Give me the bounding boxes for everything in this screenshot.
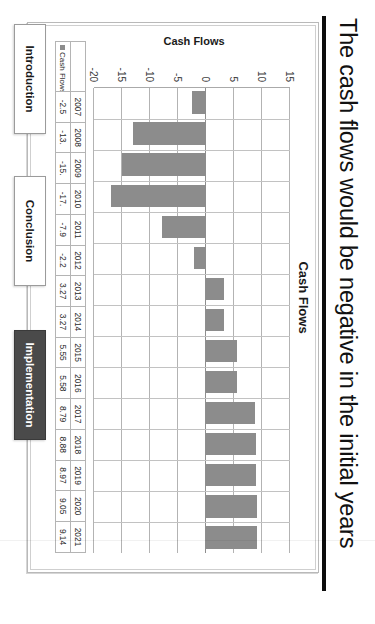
y-axis-tick-label: -10 [144, 48, 155, 82]
bar-2011[interactable] [162, 216, 206, 238]
nav-button-conclusion[interactable]: Conclusion [14, 176, 46, 286]
table-row: Cash Flows -2.5-13.-15.-17.-7.9-2.23.273… [56, 42, 71, 553]
table-value-2012: -2.2 [56, 245, 71, 276]
bar-2012[interactable] [194, 247, 206, 269]
table-value-2007: -2.5 [56, 92, 71, 123]
bar-slot [94, 304, 290, 335]
bar-2013[interactable] [206, 278, 224, 300]
table-value-2015: 5.55 [56, 337, 71, 368]
table-value-2013: 3.27 [56, 276, 71, 307]
table-header-2020: 2020 [71, 491, 86, 522]
plot-area: 151050-5-10-15-20 [94, 87, 290, 553]
bar-slot [94, 180, 290, 211]
bar-slot [94, 336, 290, 367]
presentation-slide: The cash flows would be negative in the … [0, 0, 375, 624]
scan-artifact [0, 540, 375, 541]
table-value-2010: -17. [56, 184, 71, 215]
y-axis-tick-label: -15 [116, 48, 127, 82]
table-value-2008: -13. [56, 122, 71, 153]
table-corner-cell [71, 42, 86, 92]
table-header-2011: 2011 [71, 214, 86, 245]
table-value-2019: 8.97 [56, 460, 71, 491]
bar-slot [94, 491, 290, 522]
bar-2008[interactable] [133, 122, 206, 144]
bar-2021[interactable] [206, 526, 257, 548]
table-header-2018: 2018 [71, 429, 86, 460]
y-axis-tick-label: 15 [284, 48, 295, 82]
table-value-2018: 8.88 [56, 429, 71, 460]
bar-2019[interactable] [206, 464, 256, 486]
table-header-2021: 2021 [71, 522, 86, 553]
bar-2017[interactable] [206, 402, 255, 424]
bar-slot [94, 118, 290, 149]
bar-slot [94, 273, 290, 304]
page-title: The cash flows would be negative in the … [334, 18, 361, 606]
bar-series [94, 87, 290, 553]
bar-2010[interactable] [111, 185, 206, 207]
bar-2016[interactable] [206, 371, 237, 393]
chart-title: Cash Flows [296, 23, 311, 572]
bar-slot [94, 460, 290, 491]
table-value-2017: 8.79 [56, 399, 71, 430]
bar-2009[interactable] [122, 153, 206, 175]
y-axis-tick-label: 0 [200, 48, 211, 82]
table-value-2014: 3.27 [56, 307, 71, 338]
table-value-2020: 9.05 [56, 491, 71, 522]
legend-swatch-icon [60, 45, 65, 50]
table-header-2013: 2013 [71, 276, 86, 307]
slide-canvas: The cash flows would be negative in the … [0, 0, 375, 624]
y-axis-tick-label: 10 [256, 48, 267, 82]
table-row-header: 2007200820092010201120122013201420152016… [71, 42, 86, 553]
table-header-2017: 2017 [71, 399, 86, 430]
y-axis-tick-label: -5 [172, 48, 183, 82]
y-axis-title: Cash Flows [134, 35, 254, 47]
bar-slot [94, 398, 290, 429]
y-axis-tick-label: -20 [88, 48, 99, 82]
bar-2007[interactable] [192, 91, 206, 113]
legend-label: Cash Flows [58, 52, 67, 92]
y-axis-tick-label: 5 [228, 48, 239, 82]
bar-slot [94, 149, 290, 180]
table-value-2021: 9.14 [56, 522, 71, 553]
bar-slot [94, 522, 290, 553]
table-value-2009: -15. [56, 153, 71, 184]
table-header-2016: 2016 [71, 368, 86, 399]
legend-entry: Cash Flows [56, 42, 71, 92]
nav-button-implementation[interactable]: Implementation [14, 330, 46, 440]
title-underline-rule [322, 16, 326, 591]
bar-slot [94, 87, 290, 118]
table-header-2009: 2009 [71, 153, 86, 184]
table-header-2019: 2019 [71, 460, 86, 491]
table-header-2010: 2010 [71, 184, 86, 215]
bar-slot [94, 429, 290, 460]
table-value-2016: 5.58 [56, 368, 71, 399]
chart-data-table: 2007200820092010201120122013201420152016… [55, 41, 86, 553]
table-header-2007: 2007 [71, 92, 86, 123]
table-header-2008: 2008 [71, 122, 86, 153]
nav-button-introduction[interactable]: Introduction [14, 24, 46, 134]
table-header-2012: 2012 [71, 245, 86, 276]
table-header-2014: 2014 [71, 307, 86, 338]
bar-slot [94, 367, 290, 398]
bar-slot [94, 242, 290, 273]
bar-2018[interactable] [206, 433, 256, 455]
bar-slot [94, 211, 290, 242]
chart-container[interactable]: Cash Flows Cash Flows 151050-5-10-15-20 … [27, 22, 319, 573]
table-value-2011: -7.9 [56, 214, 71, 245]
table-header-2015: 2015 [71, 337, 86, 368]
bar-2015[interactable] [206, 340, 237, 362]
bar-2020[interactable] [206, 495, 257, 517]
bar-2014[interactable] [206, 309, 224, 331]
